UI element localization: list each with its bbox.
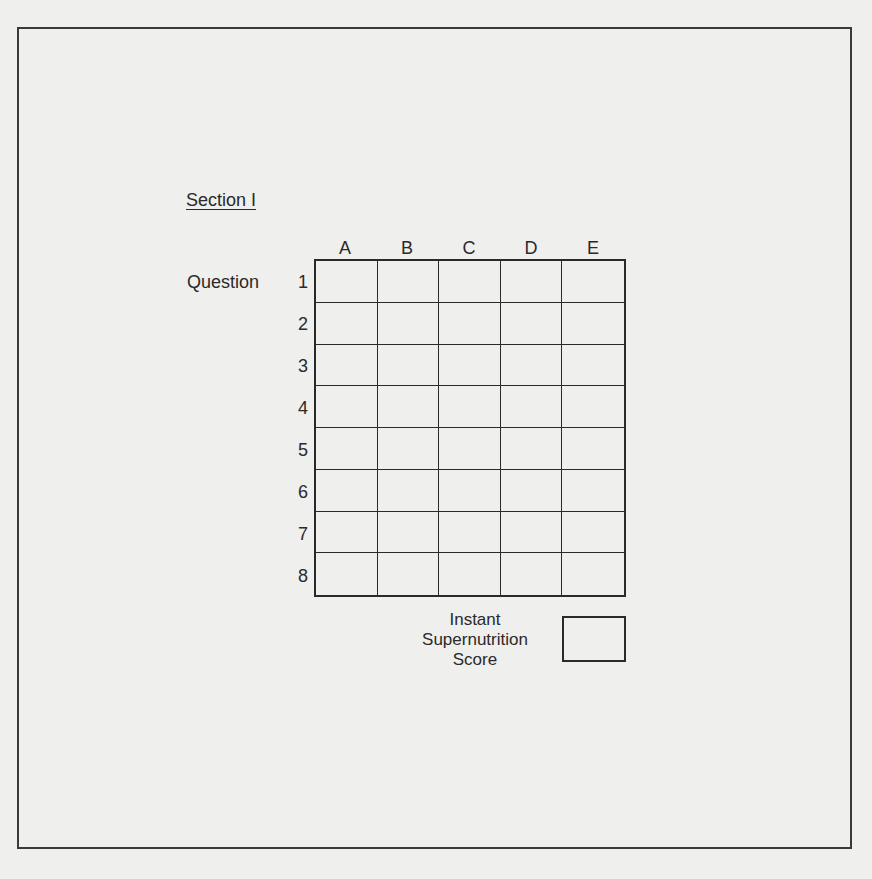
- answer-cell-2-e[interactable]: [562, 303, 624, 345]
- answer-cell-5-d[interactable]: [501, 428, 563, 470]
- row-label-6: 6: [290, 482, 308, 503]
- answer-cell-8-e[interactable]: [562, 553, 624, 595]
- column-label-c: C: [438, 238, 500, 259]
- answer-cell-7-b[interactable]: [378, 512, 440, 554]
- row-label-7: 7: [290, 524, 308, 545]
- row-label-3: 3: [290, 356, 308, 377]
- question-label: Question: [187, 272, 259, 293]
- row-label-2: 2: [290, 314, 308, 335]
- answer-cell-1-b[interactable]: [378, 261, 440, 303]
- column-label-d: D: [500, 238, 562, 259]
- answer-cell-4-d[interactable]: [501, 386, 563, 428]
- answer-cell-4-c[interactable]: [439, 386, 501, 428]
- answer-cell-5-b[interactable]: [378, 428, 440, 470]
- answer-grid: [314, 259, 626, 597]
- answer-cell-3-c[interactable]: [439, 345, 501, 387]
- answer-cell-6-a[interactable]: [316, 470, 378, 512]
- answer-cell-8-d[interactable]: [501, 553, 563, 595]
- answer-cell-7-c[interactable]: [439, 512, 501, 554]
- answer-cell-6-b[interactable]: [378, 470, 440, 512]
- answer-cell-1-d[interactable]: [501, 261, 563, 303]
- answer-cell-3-b[interactable]: [378, 345, 440, 387]
- row-label-1: 1: [290, 272, 308, 293]
- answer-cell-8-b[interactable]: [378, 553, 440, 595]
- answer-cell-2-a[interactable]: [316, 303, 378, 345]
- answer-cell-6-d[interactable]: [501, 470, 563, 512]
- section-title: Section I: [186, 190, 256, 211]
- row-label-4: 4: [290, 398, 308, 419]
- answer-cell-2-b[interactable]: [378, 303, 440, 345]
- row-label-5: 5: [290, 440, 308, 461]
- answer-cell-6-e[interactable]: [562, 470, 624, 512]
- answer-cell-2-d[interactable]: [501, 303, 563, 345]
- answer-cell-8-c[interactable]: [439, 553, 501, 595]
- column-label-e: E: [562, 238, 624, 259]
- answer-cell-5-c[interactable]: [439, 428, 501, 470]
- answer-cell-3-d[interactable]: [501, 345, 563, 387]
- answer-cell-7-e[interactable]: [562, 512, 624, 554]
- answer-cell-7-d[interactable]: [501, 512, 563, 554]
- score-label-line: Score: [400, 650, 550, 670]
- row-label-8: 8: [290, 566, 308, 587]
- answer-cell-3-e[interactable]: [562, 345, 624, 387]
- answer-cell-1-e[interactable]: [562, 261, 624, 303]
- score-box[interactable]: [562, 616, 626, 662]
- answer-cell-4-a[interactable]: [316, 386, 378, 428]
- answer-cell-1-c[interactable]: [439, 261, 501, 303]
- score-label: Instant Supernutrition Score: [400, 610, 550, 670]
- answer-cell-4-e[interactable]: [562, 386, 624, 428]
- answer-cell-6-c[interactable]: [439, 470, 501, 512]
- answer-cell-5-e[interactable]: [562, 428, 624, 470]
- answer-cell-1-a[interactable]: [316, 261, 378, 303]
- column-label-b: B: [376, 238, 438, 259]
- answer-cell-7-a[interactable]: [316, 512, 378, 554]
- answer-cell-5-a[interactable]: [316, 428, 378, 470]
- answer-cell-4-b[interactable]: [378, 386, 440, 428]
- column-label-a: A: [314, 238, 376, 259]
- score-label-line: Supernutrition: [400, 630, 550, 650]
- answer-cell-2-c[interactable]: [439, 303, 501, 345]
- answer-cell-3-a[interactable]: [316, 345, 378, 387]
- score-label-line: Instant: [400, 610, 550, 630]
- answer-cell-8-a[interactable]: [316, 553, 378, 595]
